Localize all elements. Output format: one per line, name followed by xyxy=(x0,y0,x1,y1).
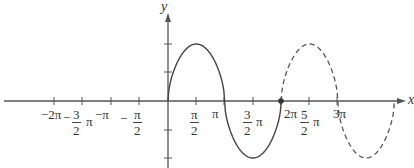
x-axis-label: x xyxy=(408,92,414,108)
x-axis-arrow-icon xyxy=(397,98,406,104)
tick-label-neg-three-halves-pi: π xyxy=(86,115,93,128)
frac-numerator: 5 xyxy=(300,108,309,123)
tick-label-five-halves-pi: π xyxy=(313,115,320,128)
graph-figure: y x −2π − 3 2 π −π − π 2 π 2 π 3 2 π 2π … xyxy=(0,0,414,168)
frac-denominator: 2 xyxy=(300,123,309,137)
frac-numerator: 3 xyxy=(72,108,81,123)
tick-label-neg-half-minus: − xyxy=(120,112,127,125)
tick-label-half-pi-frac: π 2 xyxy=(190,108,199,137)
tick-label-three-halves-frac: 3 2 xyxy=(243,108,252,137)
frac-denominator: 2 xyxy=(243,123,252,137)
tick-label-two-pi: 2π xyxy=(284,107,297,120)
tick-label-three-halves-pi: π xyxy=(256,115,263,128)
tick-label-neg-three-halves-frac: 3 2 xyxy=(72,108,81,137)
marked-point xyxy=(278,98,284,104)
frac-denominator: 2 xyxy=(190,123,199,137)
frac-denominator: 2 xyxy=(72,123,81,137)
frac-numerator: π xyxy=(190,108,199,123)
tick-label-pi: π xyxy=(212,107,219,120)
tick-label-five-halves-frac: 5 2 xyxy=(300,108,309,137)
tick-label-three-pi: 3π xyxy=(333,107,346,120)
tick-label-neg-pi: −π xyxy=(95,108,109,121)
frac-numerator: 3 xyxy=(243,108,252,123)
graph-canvas xyxy=(0,0,414,168)
frac-numerator: π xyxy=(133,108,142,123)
tick-label-neg-three-halves-minus: − xyxy=(63,111,70,124)
frac-denominator: 2 xyxy=(133,123,142,137)
tick-label-neg-two-pi: −2π xyxy=(41,108,61,121)
y-axis-label: y xyxy=(161,0,167,15)
tick-label-neg-half-pi-frac: π 2 xyxy=(133,108,142,137)
